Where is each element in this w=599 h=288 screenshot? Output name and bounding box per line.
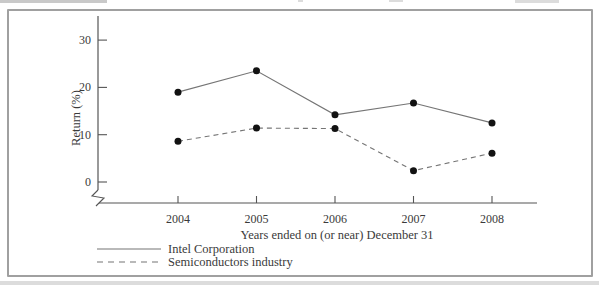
x-axis-title: Years ended on (or near) December 31 — [240, 228, 433, 243]
legend-label-semiconductors-industry: Semiconductors industry — [168, 255, 293, 270]
y-axis-break-mark — [92, 190, 104, 206]
y-tick-label: 30 — [79, 33, 91, 47]
x-tick-label: 2006 — [323, 212, 347, 226]
x-tick-label: 2007 — [402, 212, 426, 226]
x-tick-label: 2008 — [480, 212, 504, 226]
figure-screenshot: 010203020042005200620072008 Return (%) Y… — [0, 0, 599, 288]
data-point-intel-corporation-2008 — [489, 119, 496, 126]
y-axis-title: Return (%) — [69, 90, 84, 146]
x-tick-label: 2005 — [245, 212, 269, 226]
data-point-semiconductors-industry-2004 — [175, 138, 182, 145]
data-point-semiconductors-industry-2007 — [410, 167, 417, 174]
y-tick-label: 0 — [85, 175, 91, 189]
data-point-intel-corporation-2006 — [332, 111, 339, 118]
x-tick-label: 2004 — [166, 212, 190, 226]
data-point-intel-corporation-2007 — [410, 100, 417, 107]
data-point-semiconductors-industry-2006 — [332, 125, 339, 132]
data-point-semiconductors-industry-2005 — [253, 125, 260, 132]
data-point-intel-corporation-2005 — [253, 67, 260, 74]
data-point-intel-corporation-2004 — [175, 89, 182, 96]
series-line-semiconductors-industry — [178, 128, 492, 171]
chart-canvas: 010203020042005200620072008 — [0, 0, 599, 288]
data-point-semiconductors-industry-2008 — [489, 150, 496, 157]
